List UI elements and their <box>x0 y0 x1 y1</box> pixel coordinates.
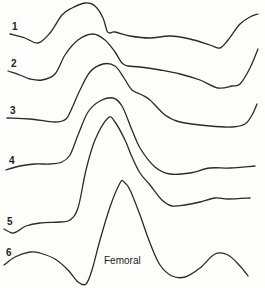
trace-label-5: 5 <box>7 217 13 227</box>
pulse-waveform-figure: 1 2 3 4 5 6 Femoral <box>0 0 265 288</box>
trace-1 <box>10 3 258 48</box>
trace-label-2: 2 <box>11 59 17 69</box>
trace-6 <box>4 180 248 284</box>
trace-label-6: 6 <box>6 248 12 258</box>
trace-2 <box>8 34 258 88</box>
trace-label-3: 3 <box>10 106 16 116</box>
waveform-plot <box>0 0 265 288</box>
trace-5 <box>4 117 250 233</box>
trace-label-1: 1 <box>12 22 18 32</box>
trace-label-4: 4 <box>9 156 15 166</box>
femoral-annotation: Femoral <box>104 256 141 266</box>
trace-4 <box>6 98 255 175</box>
trace-3 <box>7 64 257 128</box>
